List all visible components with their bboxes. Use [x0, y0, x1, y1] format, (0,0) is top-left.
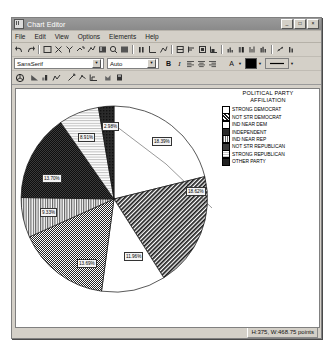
dual-axis-icon[interactable] [51, 72, 62, 83]
legend-item-ind-near-rep[interactable]: IND NEAR REP [222, 136, 314, 143]
annotate-icon[interactable] [108, 44, 119, 55]
redo-icon[interactable] [25, 44, 36, 55]
menu-view[interactable]: View [55, 33, 69, 40]
legend-items: STRONG DEMOCRAT NOT STR DEMOCRAT IND NEA… [222, 106, 314, 165]
font-size-combo[interactable]: Auto ▼ [107, 58, 159, 69]
x-axis-icon[interactable] [53, 44, 64, 55]
chevron-down-icon[interactable]: ▼ [147, 59, 156, 68]
legend-item-independent[interactable]: INDEPENDENT [222, 128, 314, 135]
toolbar-separator [171, 45, 173, 54]
legend-item-other-party[interactable]: OTHER PARTY [222, 158, 314, 165]
chart-editor-window: Chart Editor _ □ × File Edit View Option… [11, 17, 322, 339]
window-titlebar[interactable]: Chart Editor _ □ × [12, 18, 321, 31]
fill-color-swatch[interactable] [245, 58, 257, 69]
align-left-icon[interactable] [185, 58, 196, 69]
menu-help[interactable]: Help [145, 33, 158, 40]
column-icon[interactable] [286, 44, 297, 55]
legend-label-strong-republican: STRONG REPUBLICAN [232, 152, 285, 157]
pie-label-strong-democrat: 18.39% [152, 137, 172, 146]
scatter-icon[interactable] [275, 44, 286, 55]
font-size-value: Auto [110, 61, 122, 67]
bar-horizontal-icon[interactable] [147, 44, 158, 55]
line-style-icon[interactable] [265, 58, 289, 69]
toolbar-separator [38, 45, 40, 54]
data-label-icon[interactable] [114, 72, 125, 83]
chart-gallery-icon[interactable] [42, 44, 53, 55]
area-chart-icon[interactable] [175, 44, 186, 55]
undo-icon[interactable] [14, 44, 25, 55]
legend-item-strong-republican[interactable]: STRONG REPUBLICAN [222, 151, 314, 158]
maximize-button[interactable]: □ [294, 19, 306, 29]
legend-label-not-str-republican: NOT STR REPUBLICAN [232, 144, 285, 149]
menu-options[interactable]: Options [78, 33, 100, 40]
pie-slices [21, 106, 207, 292]
scatter-plot-icon[interactable] [66, 72, 77, 83]
clustered-bar-icon[interactable] [258, 44, 269, 55]
legend-item-not-str-democrat[interactable]: NOT STR DEMOCRAT [222, 114, 314, 121]
legend-label-other-party: OTHER PARTY [232, 159, 266, 164]
chevron-down-icon[interactable]: ▼ [92, 59, 101, 68]
chart-canvas-area: 18.39% 18.62% 11.96% 13.69% 9.33% 13.70%… [12, 85, 321, 326]
bold-button[interactable]: B [163, 58, 174, 69]
legend-label-independent: INDEPENDENT [232, 130, 267, 135]
line-chart-icon[interactable] [158, 44, 169, 55]
main-toolbar [12, 43, 321, 57]
text-color-dropdown-icon[interactable]: ▼ [237, 58, 243, 69]
window-title: Chart Editor [27, 21, 66, 28]
pie-label-strong-republican: 8.91% [78, 133, 95, 142]
minimize-button[interactable]: _ [281, 19, 293, 29]
legend-swatch-other-party [222, 158, 230, 166]
scale-axis-icon[interactable] [75, 44, 86, 55]
chart-legend[interactable]: POLITICAL PARTY AFFILIATION STRONG DEMOC… [222, 90, 314, 165]
drop-line-icon[interactable] [208, 44, 219, 55]
legend-label-not-str-democrat: NOT STR DEMOCRAT [232, 115, 282, 120]
y-axis-icon[interactable] [64, 44, 75, 55]
fill-color-dropdown-icon[interactable]: ▼ [257, 58, 263, 69]
line-style-dropdown-icon[interactable]: ▼ [289, 58, 295, 69]
pyramid-icon[interactable] [247, 44, 258, 55]
font-family-combo[interactable]: SansSerif ▼ [14, 58, 104, 69]
screen: Chart Editor _ □ × File Edit View Option… [0, 0, 331, 353]
histogram-icon[interactable] [225, 44, 236, 55]
step-chart-icon[interactable] [186, 44, 197, 55]
legend-title-line1: POLITICAL PARTY [222, 90, 314, 97]
grid-icon[interactable] [119, 44, 130, 55]
bar-vertical-icon[interactable] [136, 44, 147, 55]
italic-button[interactable]: I [174, 58, 185, 69]
pie-chart-icon[interactable] [14, 72, 25, 83]
legend-item-strong-democrat[interactable]: STRONG DEMOCRAT [222, 106, 314, 113]
chart-canvas[interactable]: 18.39% 18.62% 11.96% 13.69% 9.33% 13.70%… [15, 88, 320, 328]
text-color-button[interactable]: A [226, 58, 237, 69]
format-toolbar: SansSerif ▼ Auto ▼ B I A ▼ ▼ [12, 57, 321, 71]
legend-label-ind-near-rep: IND NEAR REP [232, 137, 266, 142]
pie-label-not-str-democrat: 18.62% [186, 187, 206, 196]
close-button[interactable]: × [307, 19, 319, 29]
stacked-bar-icon[interactable] [236, 44, 247, 55]
fit-line-icon[interactable] [86, 44, 97, 55]
pie-label-not-str-republican: 13.70% [42, 174, 62, 183]
legend-icon[interactable] [97, 44, 108, 55]
pie-label-other-party: 2.98% [102, 122, 119, 131]
area-fill-icon[interactable] [103, 72, 114, 83]
line-marker-icon[interactable] [77, 72, 88, 83]
text-color-label: A [229, 60, 234, 67]
legend-label-ind-near-dem: IND NEAR DEM [232, 122, 267, 127]
menubar: File Edit View Options Elements Help [12, 31, 321, 43]
toolbar-separator [132, 45, 134, 54]
legend-item-ind-near-dem[interactable]: IND NEAR DEM [222, 121, 314, 128]
legend-item-not-str-republican[interactable]: NOT STR REPUBLICAN [222, 143, 314, 150]
menu-edit[interactable]: Edit [34, 33, 45, 40]
pie-label-ind-near-rep: 9.33% [40, 208, 57, 217]
status-dimensions: H:375, W:468.75 points [247, 327, 318, 338]
box-plot-icon[interactable] [197, 44, 208, 55]
align-center-icon[interactable] [196, 58, 207, 69]
pie-label-ind-near-dem: 11.96% [124, 252, 143, 261]
step-line-icon[interactable] [88, 72, 99, 83]
menu-file[interactable]: File [15, 33, 25, 40]
bar-chart-icon[interactable] [29, 72, 40, 83]
chart-window-icon [14, 19, 24, 29]
menu-elements[interactable]: Elements [109, 33, 136, 40]
stacked-chart-icon[interactable] [40, 72, 51, 83]
align-right-icon[interactable] [207, 58, 218, 69]
legend-label-strong-democrat: STRONG DEMOCRAT [232, 107, 281, 112]
